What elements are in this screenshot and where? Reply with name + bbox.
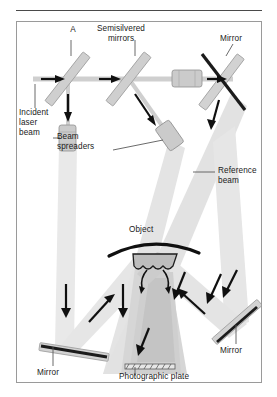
- figure-root: A Semisilvered mirrors Incident laser be…: [0, 0, 277, 397]
- figure-panel: A Semisilvered mirrors Incident laser be…: [16, 21, 262, 383]
- label-semisilvered-mirrors: Semisilvered mirrors: [75, 24, 167, 44]
- label-mirror-bottom-right: Mirror: [220, 346, 242, 356]
- optics-diagram: [17, 22, 262, 383]
- top-rule: [16, 10, 262, 11]
- object-body: [133, 254, 177, 269]
- mirror-top-right[interactable]: [199, 54, 245, 111]
- label-incident-laser-beam: Incident laser beam: [19, 108, 48, 139]
- beam-spreader-horizontal[interactable]: [172, 70, 202, 87]
- label-reference-beam: Reference beam: [218, 166, 257, 186]
- arrow-mid-right: [99, 75, 121, 83]
- leader-mirror-top-right: [226, 44, 233, 56]
- label-mirror-bottom-left: Mirror: [37, 368, 59, 378]
- label-mirror-top-right: Mirror: [220, 34, 242, 44]
- label-photographic-plate: Photographic plate: [119, 372, 189, 382]
- label-object: Object: [129, 225, 153, 235]
- label-beam-spreaders: Beam spreaders: [57, 132, 94, 152]
- leader-beam-spreader-right: [113, 140, 163, 150]
- arrow-down-left-split: [64, 94, 72, 122]
- photographic-plate[interactable]: [125, 364, 175, 369]
